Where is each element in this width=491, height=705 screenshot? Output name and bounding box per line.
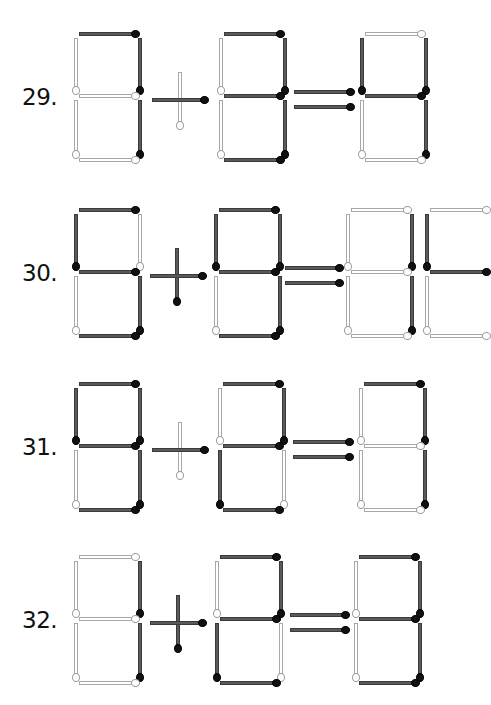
match-head-icon (403, 206, 412, 214)
segment-top (359, 555, 417, 559)
segment-top-right (138, 561, 142, 615)
match-head-icon (416, 506, 425, 514)
segment-bottom-right (283, 100, 287, 156)
match-head-icon (131, 332, 140, 340)
segment-bottom-left (74, 276, 78, 332)
segment-top-right (283, 38, 287, 92)
segment-top (219, 208, 277, 212)
match-head-icon (131, 506, 140, 514)
segment-top (79, 32, 137, 36)
segment-bottom-right (423, 450, 427, 506)
puzzle-number: 31. (22, 434, 57, 460)
segment-top (79, 382, 137, 386)
segment-middle (223, 444, 281, 448)
segment-top (223, 382, 281, 386)
segment-top-right (423, 388, 427, 442)
plus-horizontal (152, 448, 206, 452)
match-head-icon (271, 268, 280, 276)
segment-bottom-right (418, 623, 422, 679)
segment-top-right (418, 561, 422, 615)
segment-bottom-right (278, 276, 282, 332)
segment-bottom-left (354, 623, 358, 679)
equals-lower (290, 628, 347, 632)
segment-top-right (278, 214, 282, 268)
page-header-cutoff: · · · · · · · (150, 0, 340, 4)
match-head-icon (416, 380, 425, 388)
segment-bottom (359, 681, 417, 685)
match-head-icon (482, 268, 491, 276)
segment-middle (224, 94, 282, 98)
match-head-icon (275, 380, 284, 388)
match-head-icon (131, 380, 140, 388)
match-head-icon (174, 644, 182, 653)
segment-bottom (365, 158, 423, 162)
segment-bottom-left (74, 623, 78, 679)
match-head-icon (416, 442, 425, 450)
segment-top-right (410, 214, 414, 268)
segment-bottom-left (360, 100, 364, 156)
equals-upper (293, 440, 351, 444)
match-head-icon (176, 471, 184, 480)
match-head-icon (335, 279, 344, 287)
segment-top (364, 382, 422, 386)
segment-bottom (364, 508, 422, 512)
segment-bottom-right (138, 276, 142, 332)
equals-upper (290, 613, 347, 617)
segment-middle (79, 94, 137, 98)
match-head-icon (176, 121, 184, 130)
segment-top (79, 208, 137, 212)
match-head-icon (341, 611, 350, 619)
segment-bottom (351, 334, 409, 338)
match-head-icon (411, 615, 420, 623)
segment-top-left (74, 38, 78, 92)
segment-middle (79, 270, 137, 274)
segment-top-right (138, 214, 142, 268)
segment-middle (219, 270, 277, 274)
segment-bottom-left (425, 276, 429, 332)
segment-top (430, 208, 488, 212)
segment-top-left (218, 388, 222, 442)
segment-bottom-left (74, 450, 78, 506)
match-head-icon (173, 297, 181, 306)
match-head-icon (411, 553, 420, 561)
match-head-icon (131, 615, 140, 623)
segment-bottom-left (214, 276, 218, 332)
match-head-icon (276, 30, 285, 38)
segment-middle (79, 617, 137, 621)
match-head-icon (131, 442, 140, 450)
match-head-icon (131, 30, 140, 38)
segment-bottom-right (138, 623, 142, 679)
match-head-icon (276, 92, 285, 100)
segment-bottom-right (424, 100, 428, 156)
match-head-icon (131, 156, 140, 164)
segment-bottom-right (282, 450, 286, 506)
segment-top (79, 555, 137, 559)
match-head-icon (131, 92, 140, 100)
match-head-icon (198, 272, 207, 280)
plus-horizontal (152, 98, 206, 102)
match-head-icon (341, 626, 350, 634)
match-head-icon (275, 442, 284, 450)
segment-middle (359, 617, 417, 621)
segment-middle (79, 444, 137, 448)
match-head-icon (271, 332, 280, 340)
match-head-icon (271, 206, 280, 214)
segment-bottom (223, 508, 281, 512)
segment-bottom (430, 334, 488, 338)
segment-bottom (219, 334, 277, 338)
segment-bottom-left (218, 450, 222, 506)
segment-top (224, 32, 282, 36)
segment-bottom (79, 334, 137, 338)
segment-middle (365, 94, 423, 98)
segment-bottom-left (219, 100, 223, 156)
equals-upper (294, 90, 352, 94)
segment-middle (364, 444, 422, 448)
segment-bottom (220, 681, 278, 685)
equals-lower (293, 455, 351, 459)
segment-bottom-left (74, 100, 78, 156)
segment-middle (430, 270, 488, 274)
segment-top-left (360, 38, 364, 92)
segment-bottom (79, 508, 137, 512)
match-head-icon (276, 156, 285, 164)
segment-bottom-left (359, 450, 363, 506)
